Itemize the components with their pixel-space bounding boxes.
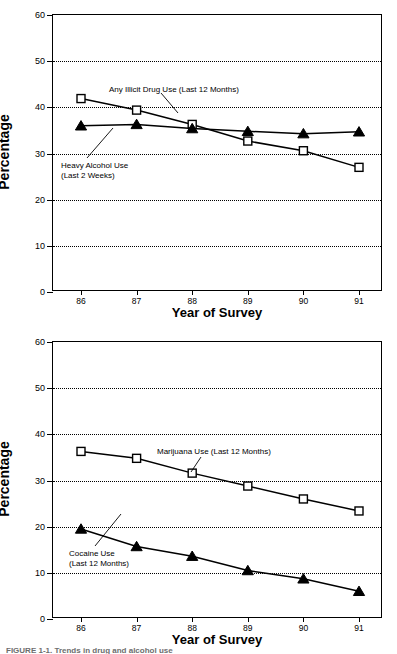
y-tick-label-20: 20 — [35, 522, 45, 531]
y-tick-50 — [47, 61, 53, 62]
annotation-marijuana-use: Marijuana Use (Last 12 Months) — [157, 447, 271, 457]
x-axis-title-bottom: Year of Survey — [172, 632, 262, 647]
y-tick-label-30: 30 — [35, 149, 45, 158]
y-tick-40 — [47, 434, 53, 435]
gridline-40 — [53, 434, 381, 435]
x-tick-90 — [303, 290, 304, 295]
y-tick-60 — [47, 342, 53, 343]
y-tick-label-30: 30 — [35, 476, 45, 485]
marker-filled-triangle — [131, 541, 142, 550]
chart-panel-top: Percentage Year of Survey 0102030405060 … — [0, 0, 397, 327]
chart-panel-bottom: Percentage Year of Survey 0102030405060 … — [0, 327, 397, 654]
gridline-40 — [53, 107, 381, 108]
x-axis-title-top: Year of Survey — [172, 305, 262, 320]
y-axis-title-top: Percentage — [0, 114, 12, 189]
y-tick-label-10: 10 — [35, 568, 45, 577]
marker-open-square — [355, 163, 363, 171]
x-tick-label-87: 87 — [132, 624, 141, 633]
marker-open-square — [299, 495, 307, 503]
gridline-10 — [53, 573, 381, 574]
marker-open-square — [77, 95, 85, 103]
y-tick-60 — [47, 15, 53, 16]
x-tick-86 — [81, 617, 82, 622]
x-tick-89 — [248, 290, 249, 295]
x-tick-88 — [192, 290, 193, 295]
y-tick-20 — [47, 200, 53, 201]
annotation-heavy-alcohol-line1: Heavy Alcohol Use — [61, 161, 128, 171]
x-tick-87 — [137, 617, 138, 622]
y-tick-20 — [47, 527, 53, 528]
annotation-any-illicit-drug-use: Any Illicit Drug Use (Last 12 Months) — [109, 85, 239, 95]
x-tick-90 — [303, 617, 304, 622]
figure-caption: FIGURE 1-1. Trends in drug and alcohol u… — [6, 646, 173, 654]
gridline-50 — [53, 61, 381, 62]
marker-open-square — [133, 454, 141, 462]
y-tick-label-20: 20 — [35, 195, 45, 204]
annotation-heavy-alcohol-line2: (Last 2 Weeks) — [61, 171, 128, 181]
x-tick-91 — [359, 290, 360, 295]
y-tick-10 — [47, 246, 53, 247]
y-tick-50 — [47, 388, 53, 389]
y-tick-label-50: 50 — [35, 57, 45, 66]
x-tick-label-91: 91 — [354, 624, 363, 633]
x-tick-label-90: 90 — [299, 624, 308, 633]
marker-filled-triangle — [298, 128, 309, 137]
y-tick-label-50: 50 — [35, 384, 45, 393]
x-tick-label-86: 86 — [76, 297, 85, 306]
y-tick-label-40: 40 — [35, 103, 45, 112]
plot-area-bottom: 0102030405060 868788899091 Marijuana Use… — [52, 341, 382, 618]
marker-filled-triangle — [75, 524, 86, 533]
x-tick-label-86: 86 — [76, 624, 85, 633]
marker-open-square — [77, 447, 85, 455]
x-tick-label-90: 90 — [299, 297, 308, 306]
series-line-1 — [81, 124, 359, 133]
gridline-30 — [53, 481, 381, 482]
gridline-20 — [53, 200, 381, 201]
marker-open-square — [244, 482, 252, 490]
x-tick-87 — [137, 290, 138, 295]
annotation-cocaine-line2: (Last 12 Months) — [69, 559, 129, 569]
marker-open-square — [244, 137, 252, 145]
y-tick-label-60: 60 — [35, 11, 45, 20]
gridline-50 — [53, 388, 381, 389]
y-tick-label-0: 0 — [40, 288, 45, 297]
marker-filled-triangle — [187, 123, 198, 132]
y-axis-title-bottom: Percentage — [0, 441, 12, 516]
gridline-30 — [53, 154, 381, 155]
x-tick-label-88: 88 — [187, 297, 196, 306]
x-tick-89 — [248, 617, 249, 622]
gridline-10 — [53, 246, 381, 247]
series-line-0 — [81, 99, 359, 168]
annotation-heavy-alcohol-use: Heavy Alcohol Use (Last 2 Weeks) — [61, 161, 128, 180]
marker-open-square — [355, 507, 363, 515]
x-tick-91 — [359, 617, 360, 622]
x-tick-label-91: 91 — [354, 297, 363, 306]
x-tick-label-88: 88 — [187, 624, 196, 633]
y-tick-0 — [47, 292, 53, 293]
y-tick-label-40: 40 — [35, 430, 45, 439]
x-tick-86 — [81, 290, 82, 295]
marker-filled-triangle — [131, 119, 142, 128]
y-tick-label-0: 0 — [40, 615, 45, 624]
y-tick-label-60: 60 — [35, 338, 45, 347]
marker-open-square — [188, 469, 196, 477]
marker-filled-triangle — [75, 121, 86, 130]
y-tick-10 — [47, 573, 53, 574]
y-tick-30 — [47, 481, 53, 482]
annotation-cocaine-use: Cocaine Use (Last 12 Months) — [69, 549, 129, 568]
gridline-20 — [53, 527, 381, 528]
x-tick-88 — [192, 617, 193, 622]
marker-filled-triangle — [353, 586, 364, 595]
marker-open-square — [188, 120, 196, 128]
marker-filled-triangle — [242, 126, 253, 135]
figure-container: Percentage Year of Survey 0102030405060 … — [0, 0, 397, 654]
y-tick-0 — [47, 619, 53, 620]
x-tick-label-89: 89 — [243, 624, 252, 633]
y-tick-label-10: 10 — [35, 241, 45, 250]
y-tick-30 — [47, 154, 53, 155]
annotation-cocaine-line1: Cocaine Use — [69, 549, 129, 559]
y-tick-40 — [47, 107, 53, 108]
marker-filled-triangle — [298, 574, 309, 583]
marker-filled-triangle — [187, 551, 198, 560]
x-tick-label-89: 89 — [243, 297, 252, 306]
